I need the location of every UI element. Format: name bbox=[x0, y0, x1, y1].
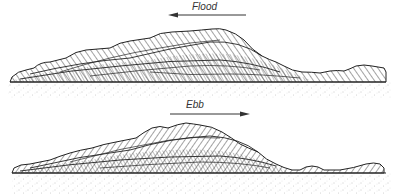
ebb-panel: Ebb bbox=[0, 98, 396, 196]
ebb-arrow-icon bbox=[170, 112, 250, 117]
flood-cross-section bbox=[0, 0, 396, 98]
flood-panel: Flood bbox=[0, 0, 396, 98]
sand-substrate bbox=[8, 82, 392, 98]
ebb-cross-section bbox=[0, 98, 396, 196]
sand-substrate bbox=[12, 173, 392, 194]
flood-arrow-icon bbox=[168, 13, 246, 18]
